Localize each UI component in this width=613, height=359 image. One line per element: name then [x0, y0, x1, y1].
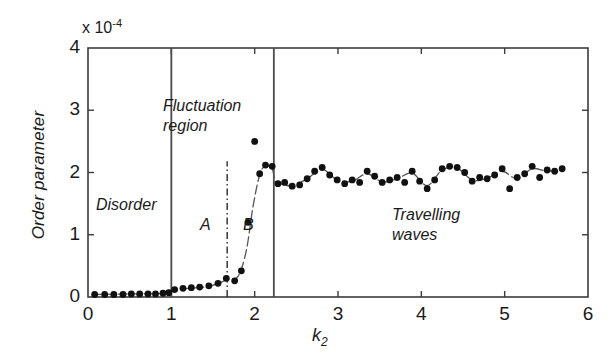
- data-point: [559, 165, 566, 172]
- data-point: [91, 291, 98, 298]
- data-point: [171, 286, 178, 293]
- data-point: [379, 179, 386, 186]
- data-point: [506, 185, 513, 192]
- data-point: [341, 180, 348, 187]
- plot-frame: [88, 48, 588, 297]
- data-point: [296, 182, 303, 189]
- data-point: [386, 177, 393, 184]
- chart-canvas: [0, 0, 613, 359]
- data-point: [349, 177, 356, 184]
- data-point: [304, 175, 311, 182]
- data-point: [262, 162, 269, 169]
- data-point: [491, 172, 498, 179]
- data-point: [536, 174, 543, 181]
- data-point: [152, 290, 159, 297]
- data-point: [446, 163, 453, 170]
- data-point: [521, 170, 528, 177]
- data-point: [205, 282, 212, 289]
- data-point: [424, 185, 431, 192]
- data-point: [101, 291, 108, 298]
- data-point: [110, 291, 117, 298]
- data-point: [269, 163, 276, 170]
- data-point: [238, 267, 245, 274]
- data-point: [529, 163, 536, 170]
- data-point: [484, 175, 491, 182]
- data-point: [165, 289, 172, 296]
- data-point: [326, 172, 333, 179]
- chart-figure: x 10-4 Order parameter k2 Disorder Fluct…: [0, 0, 613, 359]
- data-point: [499, 165, 506, 172]
- data-point: [371, 173, 378, 180]
- data-point: [364, 168, 371, 175]
- data-point: [215, 280, 222, 287]
- data-point: [289, 183, 296, 190]
- data-point: [461, 169, 468, 176]
- data-point: [431, 177, 438, 184]
- data-point: [469, 178, 476, 185]
- data-point: [319, 164, 326, 171]
- data-point: [245, 219, 252, 226]
- data-point: [145, 290, 152, 297]
- data-point: [356, 179, 363, 186]
- data-point: [196, 284, 203, 291]
- data-point: [223, 275, 230, 282]
- data-point: [476, 174, 483, 181]
- data-point: [394, 174, 401, 181]
- data-point: [160, 290, 167, 297]
- data-point: [416, 178, 423, 185]
- data-point: [544, 167, 551, 174]
- data-point: [311, 168, 318, 175]
- data-point: [334, 177, 341, 184]
- data-point: [256, 170, 263, 177]
- data-point: [180, 285, 187, 292]
- data-point: [281, 179, 288, 186]
- data-point: [409, 168, 416, 175]
- data-point: [454, 164, 461, 171]
- data-point: [128, 290, 135, 297]
- data-point: [401, 179, 408, 186]
- data-point: [514, 174, 521, 181]
- trend-line: [92, 165, 562, 294]
- data-point: [251, 138, 258, 145]
- data-point: [136, 290, 143, 297]
- data-point: [188, 284, 195, 291]
- data-point: [120, 291, 127, 298]
- data-point: [439, 165, 446, 172]
- data-point: [551, 168, 558, 175]
- data-point: [275, 180, 282, 187]
- data-point: [231, 277, 238, 284]
